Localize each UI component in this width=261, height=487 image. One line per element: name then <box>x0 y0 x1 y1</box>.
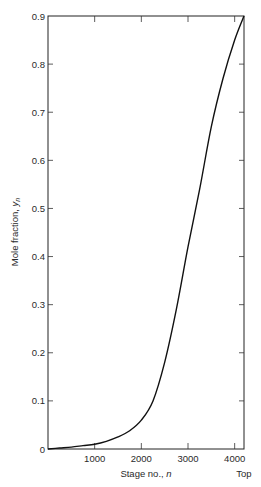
y-tick-label: 0.3 <box>32 299 45 310</box>
x-tick-label: 1000 <box>84 453 105 464</box>
y-tick-label: 0.5 <box>32 203 45 214</box>
y-tick-label: 0.7 <box>32 107 45 118</box>
y-tick-label: 0.2 <box>32 347 45 358</box>
tick-labels: 100020003000400000.10.20.30.40.50.60.70.… <box>32 11 245 465</box>
plot-frame <box>48 16 244 449</box>
y-tick-label: 0.6 <box>32 155 45 166</box>
x-axis-label: Stage no., n <box>120 468 171 479</box>
chart: 100020003000400000.10.20.30.40.50.60.70.… <box>0 0 261 487</box>
series <box>48 16 244 449</box>
x-tick-label: 2000 <box>131 453 152 464</box>
x-axis-end-label: Top <box>236 468 251 479</box>
y-tick-label: 0.1 <box>32 395 45 406</box>
y-tick-label: 0.4 <box>32 251 45 262</box>
ticks <box>48 16 244 449</box>
x-tick-label: 4000 <box>224 453 245 464</box>
y-tick-label: 0.9 <box>32 11 45 22</box>
x-tick-label: 3000 <box>177 453 198 464</box>
series-line-y_n <box>48 16 244 449</box>
y-tick-label: 0.8 <box>32 59 45 70</box>
plot-border <box>48 16 244 449</box>
y-axis-label: Mole fraction, yn <box>9 198 21 266</box>
y-tick-label: 0 <box>40 444 45 455</box>
